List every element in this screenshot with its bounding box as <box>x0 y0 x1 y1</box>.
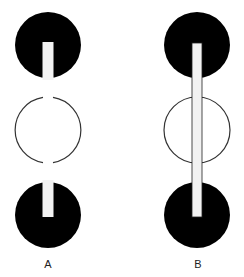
ring-left-arc-a <box>15 97 43 162</box>
panel-label-a: A <box>44 258 52 270</box>
bottom-slot-a <box>43 180 54 217</box>
diagram-canvas: A B <box>0 0 244 277</box>
top-slot-a <box>43 42 54 80</box>
panel-b: B <box>164 12 230 270</box>
connecting-rod-b <box>192 43 202 217</box>
panel-a: A <box>15 12 81 270</box>
ring-right-arc-a <box>53 97 81 162</box>
panel-label-b: B <box>194 258 201 270</box>
